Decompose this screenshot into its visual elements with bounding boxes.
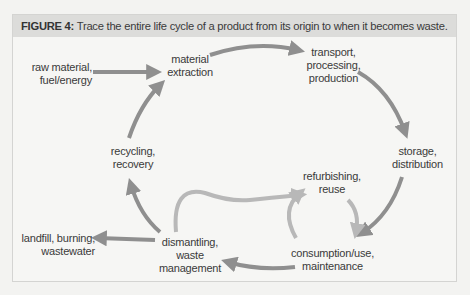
node-text: raw material,: [22, 61, 92, 74]
node-text: reuse: [292, 183, 372, 196]
node-text: consumption/use,: [285, 247, 380, 260]
node-text: transport,: [296, 46, 371, 59]
node-recycling: recycling, recovery: [98, 145, 168, 171]
arrow-dismantling-to-recycling: [131, 185, 160, 232]
node-transport: transport, processing, production: [296, 46, 371, 85]
node-text: dismantling,: [150, 236, 230, 249]
node-text: refurbishing,: [292, 170, 372, 183]
node-text: distribution: [380, 158, 455, 171]
arrow-dismantling-to-landfill: [98, 238, 155, 240]
node-landfill: landfill, burning, wastewater: [10, 232, 95, 258]
node-raw-material: raw material, fuel/energy: [22, 61, 92, 87]
arrow-dismantling-to-refurbishing: [176, 192, 300, 232]
arrow-recycling-to-extraction: [129, 85, 160, 138]
node-text: waste: [150, 249, 230, 262]
node-text: material: [155, 53, 225, 66]
node-text: storage,: [380, 145, 455, 158]
node-text: landfill, burning,: [10, 232, 95, 245]
node-storage: storage, distribution: [380, 145, 455, 171]
node-text: processing,: [296, 59, 371, 72]
node-text: extraction: [155, 66, 225, 79]
node-text: recovery: [98, 158, 168, 171]
arrow-consumption-to-refurbishing: [289, 193, 300, 238]
node-material-extraction: material extraction: [155, 53, 225, 79]
node-text: recycling,: [98, 145, 168, 158]
node-text: wastewater: [10, 245, 95, 258]
arrow-refurbishing-to-consumption: [348, 200, 357, 232]
node-refurbishing: refurbishing, reuse: [292, 170, 372, 196]
node-consumption: consumption/use, maintenance: [285, 247, 380, 273]
node-text: fuel/energy: [22, 74, 92, 87]
node-dismantling: dismantling, waste management: [150, 236, 230, 275]
node-text: production: [296, 72, 371, 85]
node-text: maintenance: [285, 260, 380, 273]
node-text: management: [150, 262, 230, 275]
